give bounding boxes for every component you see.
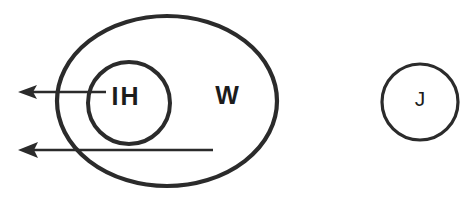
label-w: W bbox=[215, 81, 239, 109]
label-j: J bbox=[415, 87, 426, 110]
arrow-from-w bbox=[18, 142, 213, 158]
label-ih: IH bbox=[112, 82, 141, 110]
diagram-canvas: IH W J bbox=[0, 0, 475, 199]
set-diagram: IH W J bbox=[0, 0, 475, 199]
